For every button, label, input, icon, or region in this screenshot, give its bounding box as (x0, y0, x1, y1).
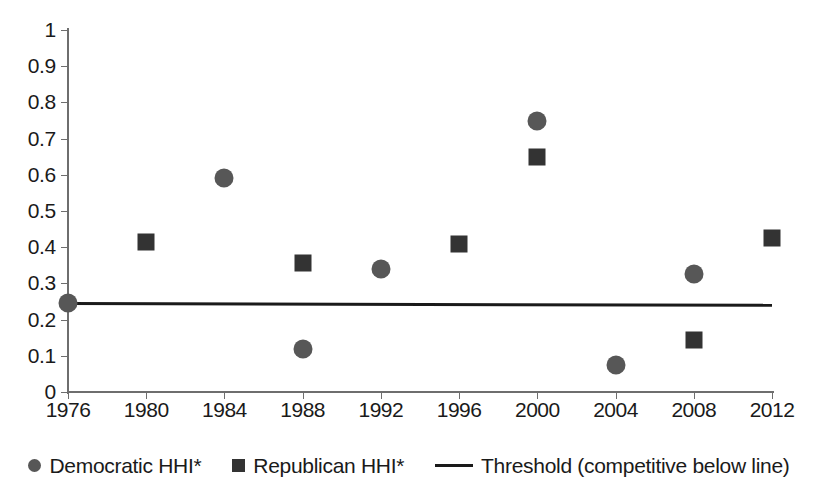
x-axis-tick-label: 2004 (593, 399, 638, 420)
x-axis-tick-label: 2012 (750, 399, 795, 420)
y-axis-tick (61, 320, 68, 321)
x-axis-tick-label: 1992 (359, 399, 404, 420)
data-point-democratic (293, 339, 312, 358)
y-axis-tick-label: 0.8 (28, 91, 56, 112)
y-axis-tick (61, 356, 68, 357)
data-point-democratic (528, 111, 547, 130)
x-axis-tick-label: 1976 (46, 399, 91, 420)
data-point-republican (764, 230, 781, 247)
legend-item-republican: Republican HHI* (232, 455, 404, 476)
x-axis-tick-label: 2008 (671, 399, 716, 420)
y-axis-tick-label: 0.2 (28, 309, 56, 330)
y-axis-tick-label: 0.6 (28, 164, 56, 185)
y-axis-tick (61, 175, 68, 176)
data-point-republican (451, 235, 468, 252)
legend-item-democratic: Democratic HHI* (28, 455, 201, 476)
legend-item-label: Threshold (competitive below line) (481, 455, 789, 476)
x-axis-tick-label: 1984 (202, 399, 247, 420)
plot-area (68, 30, 772, 392)
y-axis-tick (61, 102, 68, 103)
y-axis-tick (61, 30, 68, 31)
data-point-republican (529, 148, 546, 165)
x-axis-tick-label: 1996 (437, 399, 482, 420)
data-point-republican (685, 331, 702, 348)
y-axis-tick-label: 0.7 (28, 128, 56, 149)
y-axis-tick-label: 1 (45, 19, 56, 40)
line-marker-icon (435, 464, 473, 467)
y-axis-tick (61, 66, 68, 67)
data-point-democratic (215, 169, 234, 188)
legend-item-label: Democratic HHI* (49, 455, 201, 476)
data-point-republican (294, 255, 311, 272)
circle-marker-icon (28, 459, 41, 472)
x-axis-tick-label: 1988 (280, 399, 325, 420)
y-axis-tick (61, 247, 68, 248)
x-axis-tick-label: 1980 (124, 399, 169, 420)
threshold-line (68, 302, 772, 307)
y-axis-tick-label: 0.4 (28, 236, 56, 257)
data-point-democratic (371, 259, 390, 278)
y-axis-tick (61, 283, 68, 284)
x-axis-tick-label: 2000 (515, 399, 560, 420)
scatter-chart: 00.10.20.30.40.50.60.70.80.91 1976198019… (0, 0, 818, 497)
y-axis-tick-label: 0.5 (28, 200, 56, 221)
y-axis-tick-label: 0.1 (28, 345, 56, 366)
chart-legend: Democratic HHI*Republican HHI*Threshold … (0, 448, 818, 482)
data-point-republican (138, 233, 155, 250)
data-point-democratic (59, 294, 78, 313)
data-point-democratic (606, 355, 625, 374)
y-axis-tick (61, 392, 68, 393)
y-axis-tick-label: 0.3 (28, 272, 56, 293)
legend-item-label: Republican HHI* (253, 455, 404, 476)
legend-item-threshold: Threshold (competitive below line) (435, 455, 789, 476)
y-axis-tick-label: 0.9 (28, 55, 56, 76)
data-point-democratic (684, 265, 703, 284)
square-marker-icon (232, 459, 245, 472)
y-axis-tick (61, 211, 68, 212)
y-axis-tick (61, 139, 68, 140)
